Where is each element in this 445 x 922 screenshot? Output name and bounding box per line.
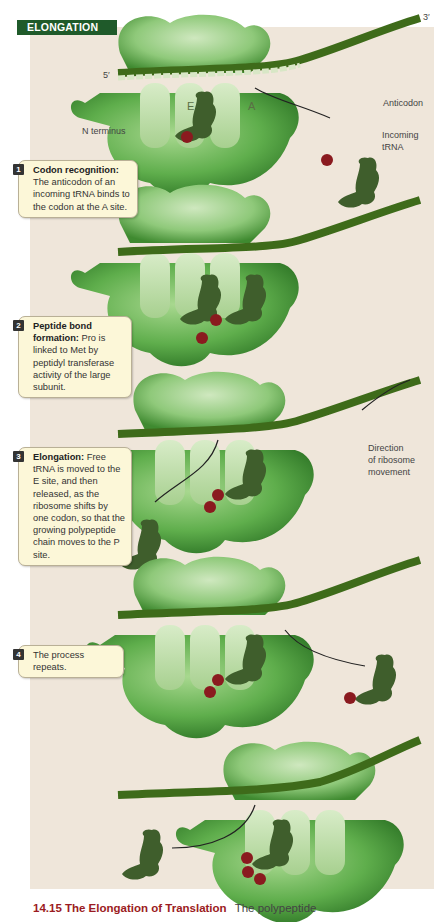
step-3-badge: 3 <box>13 451 24 462</box>
five-prime-label: 5′ <box>103 70 110 80</box>
direction-label-3: movement <box>368 467 410 477</box>
n-terminus-label: N terminus <box>82 126 126 136</box>
step-2-callout: 2 Peptide bond formation: Pro is linked … <box>18 316 132 398</box>
caption-text: The polypeptide <box>235 902 317 914</box>
step-1-callout: 1 Codon recognition: The anticodon of an… <box>18 160 138 218</box>
step-3-text: Free tRNA is moved to the E site, and th… <box>33 452 125 560</box>
step-2-badge: 2 <box>13 320 24 331</box>
direction-label-1: Direction <box>368 443 404 453</box>
figure-caption: 14.15 The Elongation of TranslationThe p… <box>33 902 316 914</box>
step-4-callout: 4 The process repeats. <box>18 645 124 678</box>
incoming-trna-label-2: tRNA <box>382 142 404 152</box>
anticodon-label: Anticodon <box>383 98 423 108</box>
a-site-label: A <box>248 100 255 112</box>
step-4-text: The process repeats. <box>33 650 84 672</box>
step-1-badge: 1 <box>13 164 24 175</box>
e-site-label: E <box>187 100 194 112</box>
step-4-badge: 4 <box>13 649 24 660</box>
step-1-title: Codon recognition: <box>33 165 119 175</box>
step-1-text: The anticodon of an incoming tRNA binds … <box>33 177 130 211</box>
three-prime-label: 3′ <box>423 12 430 22</box>
direction-label-2: of ribosome <box>368 455 415 465</box>
incoming-trna-label-1: Incoming <box>382 130 419 140</box>
step-3-title: Elongation: <box>33 452 84 462</box>
figure-label: 14.15 The Elongation of Translation <box>33 902 227 914</box>
step-3-callout: 3 Elongation: Free tRNA is moved to the … <box>18 447 132 566</box>
